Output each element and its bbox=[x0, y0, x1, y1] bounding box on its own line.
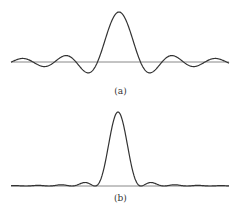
panel-a-curve bbox=[11, 12, 229, 73]
panel-a bbox=[11, 12, 229, 73]
panel-b-curve bbox=[11, 112, 229, 186]
figure-canvas bbox=[0, 0, 241, 215]
panel-a-label: (a) bbox=[0, 86, 241, 96]
panel-b-label: (b) bbox=[0, 193, 241, 203]
panel-b bbox=[11, 112, 229, 186]
